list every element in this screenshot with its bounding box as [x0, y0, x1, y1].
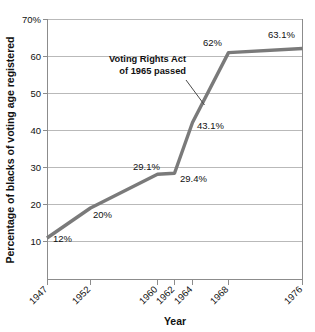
point-label-1964: 43.1% — [197, 120, 224, 131]
y-tick-label-40: 40 — [30, 125, 41, 136]
point-label-1962: 29.4% — [180, 173, 207, 184]
x-tick-label-1947: 1947 — [27, 284, 50, 307]
y-tickmarks — [43, 20, 47, 242]
chart-container: 70% 60 50 40 30 20 10 1947 1952 1960 196… — [0, 0, 315, 332]
x-tick-labels: 1947 1952 1960 1962 1964 1968 1976 — [27, 284, 305, 307]
y-tick-label-60: 60 — [30, 51, 41, 62]
point-label-1952: 20% — [93, 209, 113, 220]
y-tick-label-70: 70% — [22, 14, 42, 25]
y-axis-title: Percentage of blacks of voting age regis… — [4, 37, 16, 264]
gridlines — [47, 20, 303, 242]
annotation-line-1: Voting Rights Act — [109, 54, 186, 64]
x-tick-label-1976: 1976 — [282, 284, 305, 307]
point-label-1960: 29.1% — [133, 161, 160, 172]
point-label-1968: 62% — [203, 37, 223, 48]
y-tick-label-30: 30 — [30, 162, 41, 173]
x-axis-title: Year — [164, 315, 186, 327]
y-tick-label-20: 20 — [30, 199, 41, 210]
y-tick-label-10: 10 — [30, 236, 41, 247]
x-tickmarks — [48, 280, 303, 285]
y-tick-label-50: 50 — [30, 88, 41, 99]
point-label-1976: 63.1% — [268, 29, 295, 40]
annotation-line-2: of 1965 passed — [119, 66, 186, 76]
x-tick-label-1968: 1968 — [208, 284, 231, 307]
x-tick-label-1962: 1962 — [154, 284, 177, 307]
x-tick-label-1964: 1964 — [172, 284, 195, 307]
y-tick-labels: 70% 60 50 40 30 20 10 — [22, 14, 42, 247]
annotation-leader-line — [186, 80, 205, 105]
voting-rights-act-annotation: Voting Rights Act of 1965 passed — [109, 54, 186, 76]
data-line-series-registration — [47, 49, 303, 239]
point-label-1947: 12% — [53, 233, 73, 244]
x-tick-label-1952: 1952 — [70, 284, 93, 307]
line-chart: 70% 60 50 40 30 20 10 1947 1952 1960 196… — [0, 0, 315, 332]
